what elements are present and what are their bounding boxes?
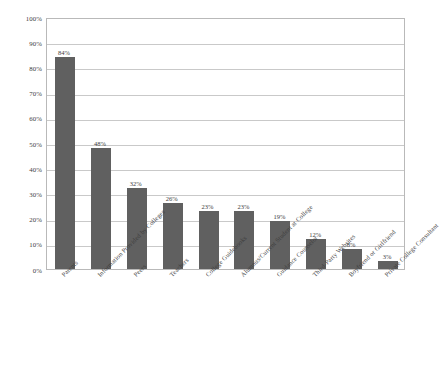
- bar: [163, 203, 183, 269]
- gridline: [47, 19, 404, 20]
- gridline: [47, 120, 404, 121]
- y-axis-tick-label: 40%: [2, 166, 42, 173]
- y-axis-tick-label: 70%: [2, 90, 42, 97]
- bar: [91, 148, 111, 269]
- bar-value-label: 23%: [223, 203, 263, 210]
- y-axis-tick-label: 20%: [2, 216, 42, 223]
- y-axis-tick-label: 0%: [2, 267, 42, 274]
- y-axis-tick-label: 80%: [2, 65, 42, 72]
- y-axis-tick-label: 90%: [2, 40, 42, 47]
- y-axis-tick-label: 30%: [2, 191, 42, 198]
- bar: [55, 57, 75, 269]
- bar-value-label: 26%: [152, 195, 192, 202]
- gridline: [47, 95, 404, 96]
- y-axis-tick-label: 50%: [2, 141, 42, 148]
- gridline: [47, 44, 404, 45]
- y-axis-tick-label: 10%: [2, 241, 42, 248]
- bar-value-label: 32%: [116, 180, 156, 187]
- bar-value-label: 84%: [44, 49, 84, 56]
- y-axis-tick-label: 60%: [2, 115, 42, 122]
- gridline: [47, 69, 404, 70]
- y-axis-tick-label: 100%: [2, 15, 42, 22]
- bar-value-label: 48%: [80, 140, 120, 147]
- bar-value-label: 23%: [188, 203, 228, 210]
